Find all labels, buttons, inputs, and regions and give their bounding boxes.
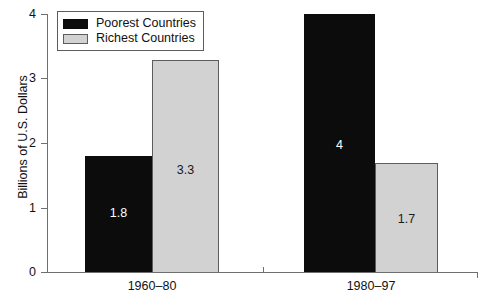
- legend-item-richest: Richest Countries: [63, 31, 196, 46]
- y-axis-tick-3: [41, 78, 47, 79]
- bar-value-poorest-1980-97: 4: [305, 139, 374, 152]
- chart-legend: Poorest Countries Richest Countries: [57, 11, 204, 51]
- y-axis-label-0: 0: [0, 266, 36, 279]
- bar-value-richest-1980-97: 1.7: [376, 213, 437, 226]
- x-axis-line: [47, 272, 477, 273]
- y-axis-tick-4: [41, 14, 47, 15]
- bar-richest-1980-97: 1.7: [375, 163, 438, 273]
- legend-label-poorest: Poorest Countries: [96, 17, 196, 30]
- y-axis-line: [47, 14, 48, 273]
- legend-swatch-poorest-icon: [63, 19, 88, 29]
- bar-value-poorest-1960-80: 1.8: [86, 207, 151, 220]
- x-axis-tick-middle: [263, 267, 264, 273]
- x-axis-tick-end: [477, 272, 478, 278]
- bar-chart: 4 3 2 1 0 Billions of U.S. Dollars 1.8 3…: [0, 0, 490, 302]
- bar-poorest-1980-97: 4: [304, 14, 375, 273]
- x-axis-category-1960-80: 1960–80: [128, 279, 177, 293]
- legend-item-poorest: Poorest Countries: [63, 16, 196, 31]
- bar-poorest-1960-80: 1.8: [85, 156, 152, 273]
- bar-richest-1960-80: 3.3: [152, 60, 219, 273]
- x-axis-category-1980-97: 1980–97: [347, 279, 396, 293]
- y-axis-tick-1: [41, 208, 47, 209]
- legend-label-richest: Richest Countries: [96, 32, 195, 45]
- y-axis-title: Billions of U.S. Dollars: [16, 47, 30, 227]
- bar-value-richest-1960-80: 3.3: [153, 164, 218, 177]
- y-axis-label-4: 4: [0, 8, 36, 21]
- legend-swatch-richest-icon: [63, 34, 88, 44]
- y-axis-tick-2: [41, 143, 47, 144]
